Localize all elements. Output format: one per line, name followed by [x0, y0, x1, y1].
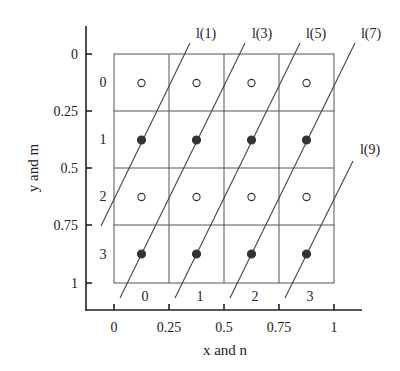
x-tick-0.5: 0.5 — [215, 320, 233, 335]
label-l7: l(7) — [361, 26, 382, 42]
x-axis-title: x and n — [203, 342, 248, 358]
row-label-0: 0 — [100, 75, 107, 90]
row-labels: 0 1 2 3 — [100, 75, 107, 262]
col-label-3: 3 — [307, 289, 314, 304]
row-label-3: 3 — [100, 247, 107, 262]
open-point — [193, 193, 200, 200]
open-point — [138, 79, 145, 86]
filled-point — [303, 136, 311, 144]
y-tick-labels: 0 0.25 0.5 0.75 1 — [54, 47, 79, 291]
open-point — [193, 79, 200, 86]
x-tick-0.25: 0.25 — [157, 320, 182, 335]
label-l9: l(9) — [360, 142, 381, 158]
lattice-diagram: 0 0.25 0.5 0.75 1 0 0.25 0.5 0.75 1 x an… — [0, 0, 400, 371]
x-tick-0.75: 0.75 — [267, 320, 292, 335]
grid — [114, 54, 334, 283]
filled-point — [138, 250, 146, 258]
y-tick-0.25: 0.25 — [54, 104, 79, 119]
y-tick-0: 0 — [71, 47, 78, 62]
open-point — [303, 79, 310, 86]
open-point — [138, 193, 145, 200]
filled-point — [248, 136, 256, 144]
label-l5: l(5) — [306, 26, 327, 42]
filled-point — [138, 136, 146, 144]
open-point — [248, 193, 255, 200]
x-tick-1: 1 — [331, 320, 338, 335]
x-tick-labels: 0 0.25 0.5 0.75 1 — [111, 320, 338, 335]
column-labels: 0 1 2 3 — [142, 289, 314, 304]
col-label-0: 0 — [142, 289, 149, 304]
line-l9 — [285, 161, 353, 298]
row-label-1: 1 — [100, 132, 107, 147]
y-tick-0.75: 0.75 — [54, 218, 79, 233]
y-axis-title: y and m — [25, 144, 41, 193]
x-tick-0: 0 — [111, 320, 118, 335]
col-label-2: 2 — [252, 289, 259, 304]
filled-point — [193, 250, 201, 258]
filled-point — [193, 136, 201, 144]
y-tick-0.5: 0.5 — [61, 161, 79, 176]
open-point — [303, 193, 310, 200]
filled-point — [303, 250, 311, 258]
label-l3: l(3) — [252, 26, 273, 42]
row-label-2: 2 — [100, 189, 107, 204]
col-label-1: 1 — [197, 289, 204, 304]
filled-point — [248, 250, 256, 258]
y-tick-1: 1 — [71, 276, 78, 291]
open-point — [248, 79, 255, 86]
label-l1: l(1) — [196, 26, 217, 42]
